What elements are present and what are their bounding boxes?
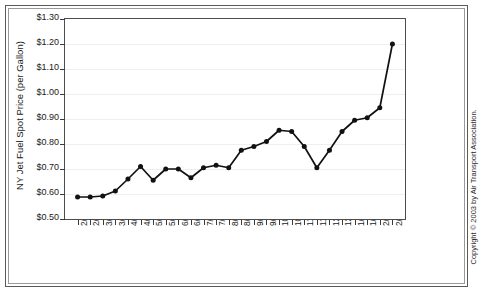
- data-point-marker: [113, 189, 118, 194]
- x-tick-mark: [191, 220, 192, 225]
- x-tick-mark: [103, 220, 104, 225]
- x-tick-mark: [266, 220, 267, 225]
- x-tick-mark: [367, 220, 368, 225]
- chart-figure: NY Jet Fuel Spot Price (per Gallon) Copy…: [0, 0, 483, 296]
- y-tick-label: $1.00: [13, 87, 59, 97]
- data-point-marker: [327, 148, 332, 153]
- x-tick-mark: [355, 220, 356, 225]
- data-point-marker: [352, 118, 357, 123]
- data-point-marker: [75, 195, 80, 200]
- data-point-marker: [88, 195, 93, 200]
- data-point-marker: [277, 128, 282, 133]
- y-tick-label: $0.90: [13, 112, 59, 122]
- data-point-marker: [151, 178, 156, 183]
- x-tick-mark: [380, 220, 381, 225]
- data-point-marker: [390, 42, 395, 47]
- x-tick-mark: [78, 220, 79, 225]
- data-point-marker: [176, 167, 181, 172]
- plot-area: [64, 18, 406, 220]
- data-point-marker: [201, 165, 206, 170]
- data-point-marker: [100, 194, 105, 199]
- x-tick-mark: [241, 220, 242, 225]
- x-tick-mark: [292, 220, 293, 225]
- data-point-marker: [163, 167, 168, 172]
- x-tick-mark: [329, 220, 330, 225]
- x-tick-mark: [279, 220, 280, 225]
- y-tick-label: $0.50: [13, 212, 59, 222]
- data-point-marker: [340, 129, 345, 134]
- y-tick-mark: [60, 219, 65, 220]
- y-tick-label: $0.80: [13, 137, 59, 147]
- x-tick-mark: [128, 220, 129, 225]
- data-point-marker: [289, 129, 294, 134]
- data-point-marker: [377, 105, 382, 110]
- series-line: [78, 44, 393, 197]
- data-point-marker: [125, 177, 130, 182]
- x-tick-mark: [304, 220, 305, 225]
- x-tick-mark: [166, 220, 167, 225]
- x-tick-mark: [204, 220, 205, 225]
- y-tick-label: $0.70: [13, 162, 59, 172]
- data-point-marker: [138, 164, 143, 169]
- data-point-marker: [302, 144, 307, 149]
- data-point-marker: [314, 165, 319, 170]
- x-tick-mark: [178, 220, 179, 225]
- y-tick-label: $1.20: [13, 37, 59, 47]
- x-tick-mark: [90, 220, 91, 225]
- x-tick-mark: [229, 220, 230, 225]
- data-series-jet-fuel-price: [65, 19, 405, 219]
- y-tick-label: $0.60: [13, 187, 59, 197]
- data-point-marker: [264, 139, 269, 144]
- x-tick-mark: [141, 220, 142, 225]
- data-point-marker: [239, 148, 244, 153]
- x-tick-mark: [153, 220, 154, 225]
- copyright-notice: Copyright © 2003 by Air Transport Associ…: [469, 85, 478, 265]
- x-tick-mark: [254, 220, 255, 225]
- data-point-marker: [188, 175, 193, 180]
- y-tick-label: $1.10: [13, 62, 59, 72]
- x-tick-mark: [342, 220, 343, 225]
- data-point-marker: [214, 163, 219, 168]
- x-tick-mark: [216, 220, 217, 225]
- data-point-marker: [251, 144, 256, 149]
- x-tick-mark: [392, 220, 393, 225]
- data-point-marker: [365, 115, 370, 120]
- x-tick-mark: [317, 220, 318, 225]
- x-tick-mark: [115, 220, 116, 225]
- y-tick-label: $1.30: [13, 12, 59, 22]
- data-point-marker: [226, 165, 231, 170]
